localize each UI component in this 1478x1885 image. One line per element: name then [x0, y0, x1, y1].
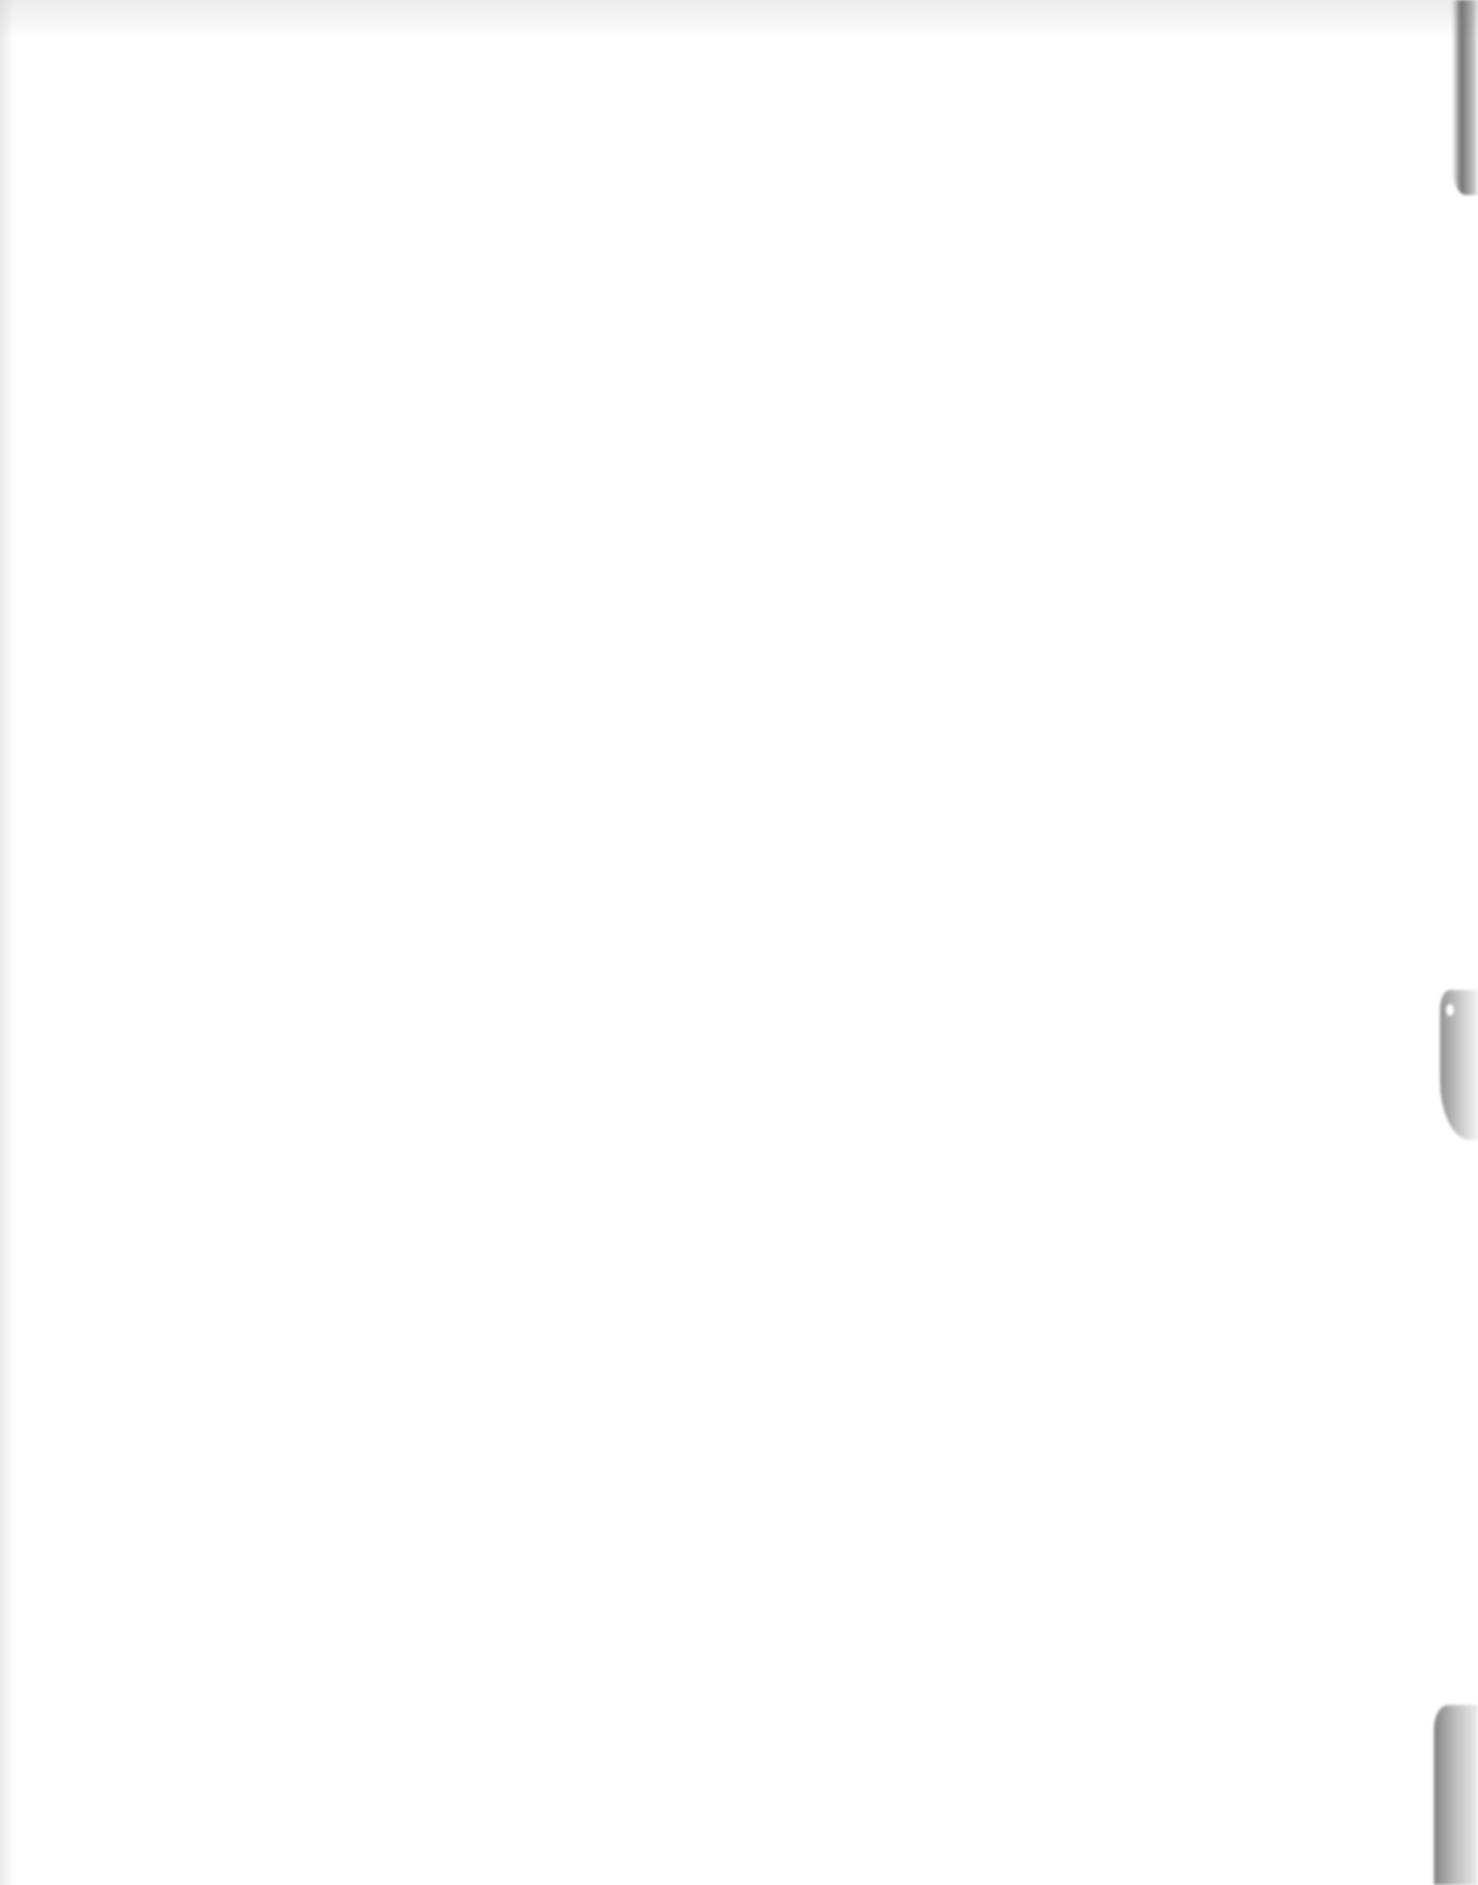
blank-document-page [0, 0, 1478, 1885]
scan-noise-top-edge [0, 0, 1478, 40]
right-edge-shadow-top [1452, 0, 1478, 195]
right-edge-shadow-middle [1440, 990, 1478, 1140]
edge-notch [1446, 1004, 1454, 1016]
right-edge-shadow-bottom [1434, 1705, 1478, 1885]
scan-noise-left-edge [0, 0, 14, 1885]
